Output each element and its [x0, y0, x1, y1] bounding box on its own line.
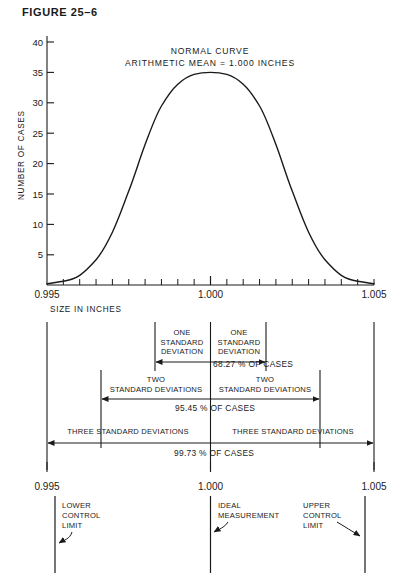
one-sigma-percentage: 68.27 % OF CASES — [213, 359, 293, 369]
one-sigma-left-line-3: DEVIATION — [161, 347, 203, 356]
lower-control-limit-label: LOWER CONTROL LIMIT — [62, 501, 101, 530]
one-sigma-left-line-2: STANDARD — [161, 338, 204, 347]
lower-limit-line-3: LIMIT — [62, 521, 83, 530]
two-sigma-percentage: 95.45 % OF CASES — [175, 403, 255, 413]
two-sigma-right-line-2: STANDARD DEVIATIONS — [219, 385, 312, 394]
x-tick-label-right: 1.005 — [361, 289, 386, 300]
chart-title: NORMAL CURVE — [171, 46, 249, 56]
y-tick-label-5: 5 — [38, 249, 43, 260]
two-sigma-right-line-1: TWO — [256, 375, 274, 384]
figure-drawing: 40 35 30 25 20 15 10 5 NUMBER OF CASES — [0, 0, 403, 581]
control-value-center: 1.000 — [198, 481, 223, 492]
one-sigma-right-line-3: DEVIATION — [218, 347, 260, 356]
upper-limit-line-2: CONTROL — [303, 511, 342, 520]
one-sigma-left-label: ONE STANDARD DEVIATION — [161, 328, 204, 356]
standard-deviation-diagram: ONE STANDARD DEVIATION ONE STANDARD DEVI… — [47, 322, 374, 470]
figure-container: FIGURE 25–6 40 35 30 — [0, 0, 403, 581]
three-sigma-right-label: THREE STANDARD DEVIATIONS — [232, 427, 354, 436]
ideal-line-1: IDEAL — [218, 501, 241, 510]
one-sigma-right-label: ONE STANDARD DEVIATION — [218, 328, 261, 356]
lower-limit-leader-arrow — [59, 532, 72, 543]
two-sigma-left-line-2: STANDARD DEVIATIONS — [110, 385, 203, 394]
upper-limit-line-3: LIMIT — [303, 521, 324, 530]
upper-limit-line-1: UPPER — [303, 501, 330, 510]
one-sigma-right-line-2: STANDARD — [218, 338, 261, 347]
lower-limit-line-2: CONTROL — [62, 511, 101, 520]
x-tick-label-center: 1.000 — [198, 289, 223, 300]
ideal-measurement-leader-arrow — [214, 522, 228, 532]
one-sigma-right-line-1: ONE — [230, 328, 247, 337]
upper-control-limit-label: UPPER CONTROL LIMIT — [303, 501, 342, 530]
upper-limit-leader-arrow — [337, 522, 360, 536]
y-tick-label-15: 15 — [32, 189, 43, 200]
x-axis-ticks — [63, 276, 374, 285]
two-sigma-left-label: TWO STANDARD DEVIATIONS — [110, 375, 203, 394]
x-tick-label-left: 0.995 — [34, 289, 59, 300]
normal-distribution-curve — [47, 72, 374, 283]
control-value-right: 1.005 — [361, 481, 386, 492]
two-sigma-left-line-1: TWO — [147, 375, 165, 384]
chart-subtitle: ARITHMETIC MEAN = 1.000 INCHES — [125, 58, 295, 68]
y-axis-title: NUMBER OF CASES — [17, 110, 26, 200]
y-tick-label-25: 25 — [32, 128, 43, 139]
one-sigma-left-line-1: ONE — [173, 328, 190, 337]
y-tick-label-35: 35 — [32, 67, 43, 78]
y-axis-tick-labels: 40 35 30 25 20 15 10 5 — [32, 37, 43, 261]
three-sigma-left-label: THREE STANDARD DEVIATIONS — [67, 427, 189, 436]
y-tick-label-10: 10 — [32, 219, 43, 230]
normal-curve-chart: 40 35 30 25 20 15 10 5 NUMBER OF CASES — [17, 36, 387, 314]
y-axis-ticks — [47, 42, 54, 255]
x-axis-title: SIZE IN INCHES — [50, 305, 122, 314]
ideal-measurement-label: IDEAL MEASUREMENT — [218, 501, 279, 520]
control-limit-scale: 0.995 1.000 1.005 LOWER CONTROL LIMIT ID… — [34, 462, 386, 573]
lower-limit-line-1: LOWER — [62, 501, 91, 510]
y-tick-label-40: 40 — [32, 37, 43, 48]
y-tick-label-20: 20 — [32, 158, 43, 169]
y-tick-label-30: 30 — [32, 97, 43, 108]
ideal-line-2: MEASUREMENT — [218, 511, 279, 520]
control-value-left: 0.995 — [34, 481, 59, 492]
three-sigma-percentage: 99.73 % OF CASES — [174, 448, 254, 458]
two-sigma-right-label: TWO STANDARD DEVIATIONS — [219, 375, 312, 394]
